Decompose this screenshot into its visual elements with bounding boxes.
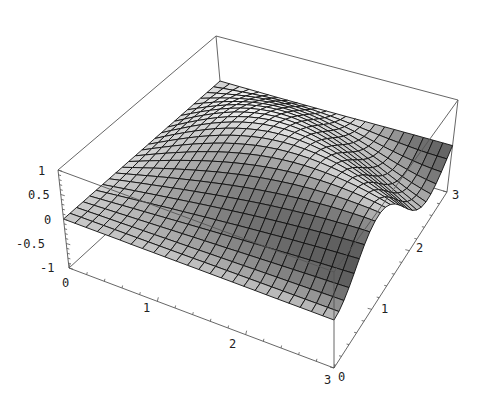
x-tick-label: 0 [62,276,69,290]
z-tick-label: -1 [40,261,54,275]
y-tick-label: 1 [381,302,388,316]
surface-mesh [64,81,453,320]
y-tick [368,308,372,309]
y-tick [339,356,342,357]
y-tick [362,321,365,322]
y-tick [392,274,395,275]
x-tick-label: 1 [143,301,150,315]
y-tick [443,191,447,192]
y-tick [429,215,432,216]
y-tick [399,262,402,263]
z-tick-label: 1 [38,164,45,178]
y-tick-label: 2 [416,241,423,255]
x-tick [299,352,300,355]
y-tick [347,344,350,345]
x-tick [157,297,158,301]
x-tick [228,326,229,329]
x-tick [316,359,317,362]
x-tick [210,319,211,322]
z-tick-label: -0.5 [16,237,45,251]
y-tick [330,367,334,368]
y-tick [414,238,417,239]
x-tick [281,346,282,349]
x-tick [122,286,123,289]
x-tick [104,279,105,282]
x-tick [246,331,247,335]
y-tick [422,227,425,228]
x-tick [193,312,194,315]
z-tick [66,244,70,245]
z-tick-label: 0.5 [28,188,50,202]
x-tick [175,306,176,309]
y-tick [437,203,440,204]
z-tick [61,195,65,196]
y-tick-label: 3 [452,188,459,202]
x-tick-label: 2 [229,337,236,351]
x-tick [263,339,264,342]
x-tick [140,292,141,295]
y-tick [405,250,409,251]
y-tick [354,332,357,333]
z-tick-label: 0 [44,213,51,227]
y-tick [377,297,380,298]
x-tick [87,272,88,275]
y-tick-label: 0 [338,370,345,384]
surface-plot: 1 0.5 0 -0.5 -1 0 1 2 3 0 1 2 3 [0,0,482,408]
x-tick-label: 3 [324,373,331,387]
y-tick [384,285,387,286]
